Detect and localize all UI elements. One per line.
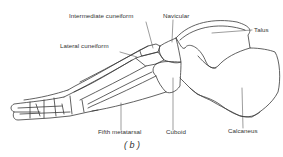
leader-intermediate-cuneiform [146,22,153,48]
leader-calcaneus [242,88,243,128]
foot-bones-diagram: Intermediate cuneiform Navicular Talus L… [0,0,283,157]
leader-navicular [172,20,173,42]
label-intermediate-cuneiform: Intermediate cuneiform [69,12,133,19]
fifth-metatarsal-outline [88,76,166,111]
navicular-outline [159,38,181,63]
talus-outline [176,21,280,118]
cuboid-outline [153,62,181,93]
label-talus: Talus [254,26,269,33]
leader-talus [212,30,252,33]
label-fifth-metatarsal: Fifth metatarsal [98,128,141,135]
label-calcaneus: Calcaneus [228,127,258,134]
label-cuboid: Cuboid [166,128,186,135]
label-navicular: Navicular [163,12,189,19]
talus-neck [176,38,250,68]
lateral-cuneiform-outline [136,52,164,66]
figure-caption: ( b ) [124,140,140,150]
label-lateral-cuneiform: Lateral cuneiform [60,42,109,49]
phalanges-top [11,90,68,112]
